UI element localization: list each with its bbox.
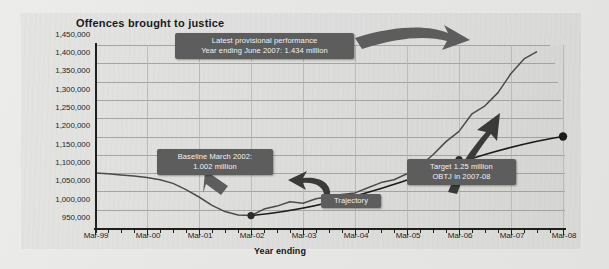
chart-screenshot: 1,450,000 1,400,000 1,350,000 1,300,000 … <box>0 0 609 269</box>
callout-target: Target 1.25 million OBTJ in 2007-08 <box>407 159 516 185</box>
callout-line-2: OBTJ in 2007-08 <box>414 172 509 182</box>
callout-line-2: 1.002 million <box>164 162 266 172</box>
callout-line-1: Target 1.25 million <box>414 162 509 172</box>
arrow-latest-provisional <box>355 25 470 50</box>
callout-line-1: Baseline March 2002: <box>164 152 266 162</box>
callout-trajectory: Trajectory <box>321 194 381 208</box>
callout-baseline: Baseline March 2002: 1.002 million <box>157 149 273 175</box>
callout-line-1: Trajectory <box>327 196 375 206</box>
callout-latest-provisional: Latest provisional performance Year endi… <box>175 33 354 59</box>
callout-line-1: Latest provisional performance <box>182 36 347 46</box>
callout-line-2: Year ending June 2007: 1.434 million <box>182 46 347 56</box>
